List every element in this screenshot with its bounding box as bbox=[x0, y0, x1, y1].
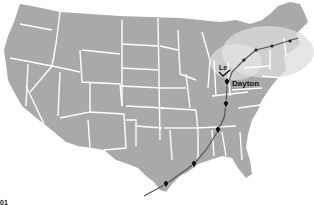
city-label-dayton: Dayton bbox=[232, 80, 259, 88]
map-canvas bbox=[0, 0, 314, 205]
partial-label: Le bbox=[219, 64, 227, 71]
corner-partial-label: 01 bbox=[0, 199, 8, 205]
marker-icon bbox=[242, 58, 245, 61]
glacier-region bbox=[210, 44, 262, 80]
marker-icon bbox=[270, 44, 273, 47]
us-map: Le Dayton 01 bbox=[0, 0, 314, 205]
marker-icon bbox=[288, 39, 291, 42]
marker-icon bbox=[254, 48, 257, 51]
